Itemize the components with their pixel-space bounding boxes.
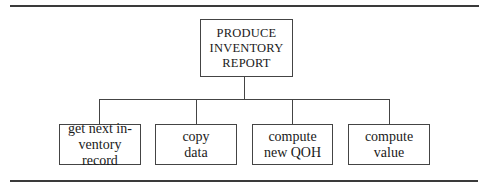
- structure-chart: PRODUCE INVENTORY REPORT get next in- ve…: [0, 0, 486, 186]
- module-box-copy-data: copy data: [155, 124, 237, 165]
- root-stem-line: [244, 76, 245, 100]
- drop-line-4: [389, 99, 390, 124]
- bottom-rule: [10, 180, 478, 182]
- module-box-compute-value: compute value: [348, 124, 430, 165]
- module-label: get next in- ventory record: [60, 121, 140, 169]
- drop-line-3: [292, 99, 293, 124]
- root-module-label: PRODUCE INVENTORY REPORT: [210, 26, 284, 71]
- module-label: compute new QOH: [264, 129, 321, 161]
- drop-line-2: [196, 99, 197, 124]
- module-label: copy data: [182, 129, 209, 161]
- module-label: compute value: [365, 129, 413, 161]
- top-rule: [10, 5, 479, 7]
- root-module-box: PRODUCE INVENTORY REPORT: [200, 19, 293, 77]
- module-box-compute-new-qoh: compute new QOH: [252, 124, 333, 165]
- horizontal-connector-line: [99, 99, 390, 100]
- module-box-get-next-record: get next in- ventory record: [59, 124, 141, 165]
